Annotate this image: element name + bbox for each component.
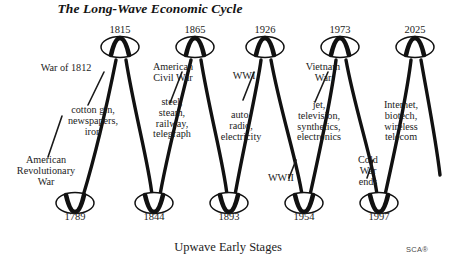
peak-nodes <box>101 37 434 58</box>
long-wave-economic-cycle-figure: The Long-Wave Economic Cycle <box>0 0 456 267</box>
annotation-war-of-1812: War of 1812 <box>31 63 101 74</box>
peak-node-1926 <box>246 37 284 58</box>
annotation-technologies-cycle3: auto, radio, electricity <box>213 110 269 142</box>
peak-node-1815 <box>101 37 139 58</box>
year-label-1815: 1815 <box>98 24 142 35</box>
annotation-wwii: WWII <box>261 173 301 184</box>
figure-caption: Upwave Early Stages <box>128 240 328 255</box>
annotation-technologies-cycle5: Internet, biotech, wireless telecom <box>369 100 433 143</box>
year-label-1893: 1893 <box>207 211 251 222</box>
annotation-cold-war-ends: Cold War ends <box>351 155 385 187</box>
year-label-1844: 1844 <box>132 211 176 222</box>
annotation-american-civil-war: American Civil War <box>144 62 202 84</box>
year-label-2025: 2025 <box>393 24 437 35</box>
year-label-1865: 1865 <box>173 24 217 35</box>
annotation-technologies-cycle4: jet, television, synthetics, electronics <box>286 100 352 143</box>
annotation-wwi: WWI <box>226 71 262 82</box>
year-label-1997: 1997 <box>357 211 401 222</box>
year-label-1954: 1954 <box>282 211 326 222</box>
year-label-1926: 1926 <box>243 24 287 35</box>
annotation-vietnam-war: Vietnam War <box>297 62 349 84</box>
annotation-technologies-cycle1: cotton gin, newspapers, iron <box>57 105 129 137</box>
annotation-technologies-cycle2: steel, steam, railway, telegraph <box>143 97 201 140</box>
peak-node-2025 <box>396 37 434 58</box>
sca-trademark: SCA® <box>406 245 428 254</box>
year-label-1789: 1789 <box>53 211 97 222</box>
year-label-1973: 1973 <box>318 24 362 35</box>
leader-war-of-1812 <box>88 72 104 105</box>
peak-node-1973 <box>321 37 359 58</box>
annotation-american-revolutionary-war: American Revolutionary War <box>8 155 84 187</box>
peak-node-1865 <box>176 37 214 58</box>
